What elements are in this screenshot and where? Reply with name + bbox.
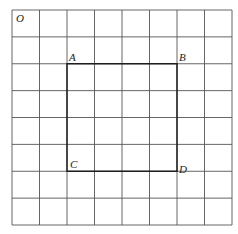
label-c: C <box>70 158 78 170</box>
label-b: B <box>179 51 186 63</box>
label-d: D <box>178 163 187 175</box>
grid <box>12 10 232 225</box>
label-origin: O <box>16 12 24 24</box>
label-a: A <box>68 51 76 63</box>
grid-diagram: O A B C D <box>0 0 238 234</box>
